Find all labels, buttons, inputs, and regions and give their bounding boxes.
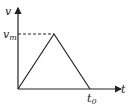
vm-label: vm bbox=[3, 28, 17, 42]
x-axis-label: t bbox=[121, 83, 126, 96]
y-axis-label: v bbox=[5, 5, 12, 18]
vm-label-sub: m bbox=[9, 33, 17, 42]
t0-label: t0 bbox=[87, 92, 97, 106]
velocity-series-line bbox=[18, 34, 90, 89]
velocity-time-diagram: v t vm t0 bbox=[0, 0, 129, 106]
t0-label-sub: 0 bbox=[91, 97, 96, 106]
